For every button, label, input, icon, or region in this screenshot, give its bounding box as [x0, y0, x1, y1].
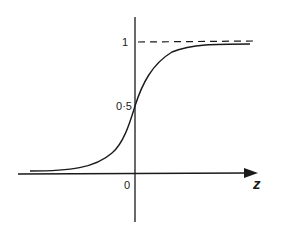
sigmoid-chart: 1 0·5 0 z — [0, 0, 286, 232]
sigmoid-curve — [30, 44, 250, 171]
y-tick-one: 1 — [122, 36, 128, 48]
x-axis-label: z — [252, 175, 261, 192]
y-tick-half: 0·5 — [116, 100, 132, 112]
x-tick-zero: 0 — [124, 179, 130, 191]
x-axis — [18, 173, 248, 174]
asymptote-line — [138, 41, 254, 42]
